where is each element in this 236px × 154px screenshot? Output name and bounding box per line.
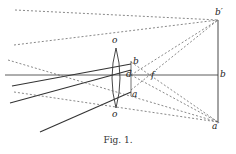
- optics-diagram: [0, 0, 236, 154]
- label-image-mid: b: [220, 70, 226, 79]
- label-lens-top: o: [112, 36, 117, 45]
- label-object-top: b: [133, 57, 139, 66]
- label-object-mid: d: [126, 70, 132, 79]
- label-lens-bottom: o: [112, 110, 117, 119]
- label-focus: f: [151, 71, 154, 80]
- label-object-bottom: a: [132, 90, 137, 99]
- label-image-top: b′: [215, 8, 223, 17]
- figure-caption: Fig. 1.: [0, 135, 236, 145]
- figure: o o b d a f b′ b a′ Fig. 1.: [0, 0, 236, 154]
- label-image-bottom: a′: [212, 122, 219, 131]
